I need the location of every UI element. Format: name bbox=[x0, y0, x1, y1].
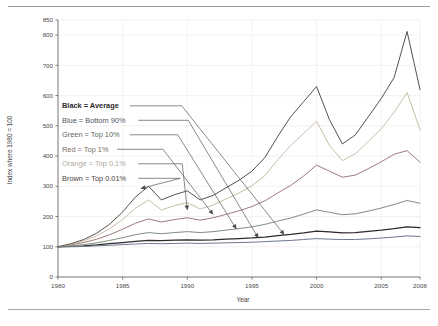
annotation-arrowhead bbox=[232, 224, 236, 229]
series-line bbox=[58, 227, 420, 247]
x-tick-label: 2008 bbox=[413, 282, 427, 289]
line-chart: 0100200300400500600700800850 19801985199… bbox=[0, 0, 438, 326]
x-axis-title: Year bbox=[237, 296, 251, 303]
annotation-leader bbox=[130, 135, 237, 229]
legend-label: Black = Average bbox=[62, 101, 119, 110]
y-tick-label: 700 bbox=[43, 62, 54, 69]
legend: Black = AverageBlue = Bottom 90%Green = … bbox=[62, 101, 127, 183]
series-line bbox=[58, 201, 420, 247]
x-tick-label: 2000 bbox=[310, 282, 324, 289]
y-axis: 0100200300400500600700800850 bbox=[43, 16, 58, 280]
y-tick-label: 850 bbox=[43, 16, 54, 23]
y-axis-title: Index where 1980 = 100 bbox=[6, 115, 13, 184]
annotation-arrowhead bbox=[209, 209, 214, 214]
x-axis: 1980198519901995200020052008 bbox=[51, 277, 427, 289]
y-tick-label: 400 bbox=[43, 152, 54, 159]
annotation-arrowhead bbox=[185, 205, 190, 210]
legend-label: Red = Top 1% bbox=[62, 145, 109, 154]
y-tick-label: 800 bbox=[43, 31, 54, 38]
chart-page: 0100200300400500600700800850 19801985199… bbox=[0, 0, 438, 326]
y-tick-label: 100 bbox=[43, 243, 54, 250]
x-tick-label: 2005 bbox=[374, 282, 388, 289]
x-tick-label: 1980 bbox=[51, 282, 65, 289]
x-tick-label: 1990 bbox=[180, 282, 194, 289]
annotation-leader bbox=[138, 164, 187, 210]
x-tick-label: 1995 bbox=[245, 282, 259, 289]
series-line bbox=[58, 31, 420, 246]
y-tick-label: 200 bbox=[43, 213, 54, 220]
annotation-leader bbox=[130, 106, 285, 235]
y-tick-label: 0 bbox=[50, 273, 54, 280]
series-line bbox=[58, 236, 420, 247]
annotation-arrowhead bbox=[280, 230, 285, 235]
legend-label: Green = Top 10% bbox=[62, 130, 120, 139]
x-tick-label: 1985 bbox=[116, 282, 130, 289]
annotation-arrowhead bbox=[141, 185, 146, 189]
legend-label: Brown = Top 0.01% bbox=[62, 174, 127, 183]
legend-label: Blue = Bottom 90% bbox=[62, 116, 126, 125]
y-tick-label: 300 bbox=[43, 182, 54, 189]
y-tick-label: 600 bbox=[43, 92, 54, 99]
series-lines bbox=[58, 31, 420, 246]
y-tick-label: 500 bbox=[43, 122, 54, 129]
legend-label: Orange = Top 0.1% bbox=[62, 159, 126, 168]
